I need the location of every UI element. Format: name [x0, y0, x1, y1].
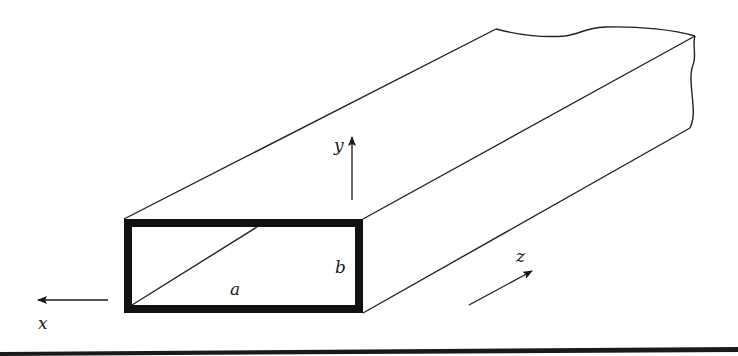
y-axis-label: y — [333, 135, 344, 155]
right-broken-edge — [690, 36, 695, 128]
bottom-rule — [0, 347, 738, 356]
width-label-a: a — [230, 279, 240, 299]
bottom-right-edge — [363, 128, 690, 313]
top-left-edge — [124, 29, 496, 219]
height-label-b: b — [335, 257, 346, 277]
z-axis-label: z — [515, 246, 526, 266]
top-right-edge — [363, 36, 695, 219]
waveguide-body — [124, 27, 695, 313]
top-broken-edge — [496, 27, 695, 37]
x-axis-label: x — [38, 313, 48, 333]
waveguide-diagram: y x z a b — [0, 0, 738, 356]
z-axis-arrow — [469, 271, 532, 305]
